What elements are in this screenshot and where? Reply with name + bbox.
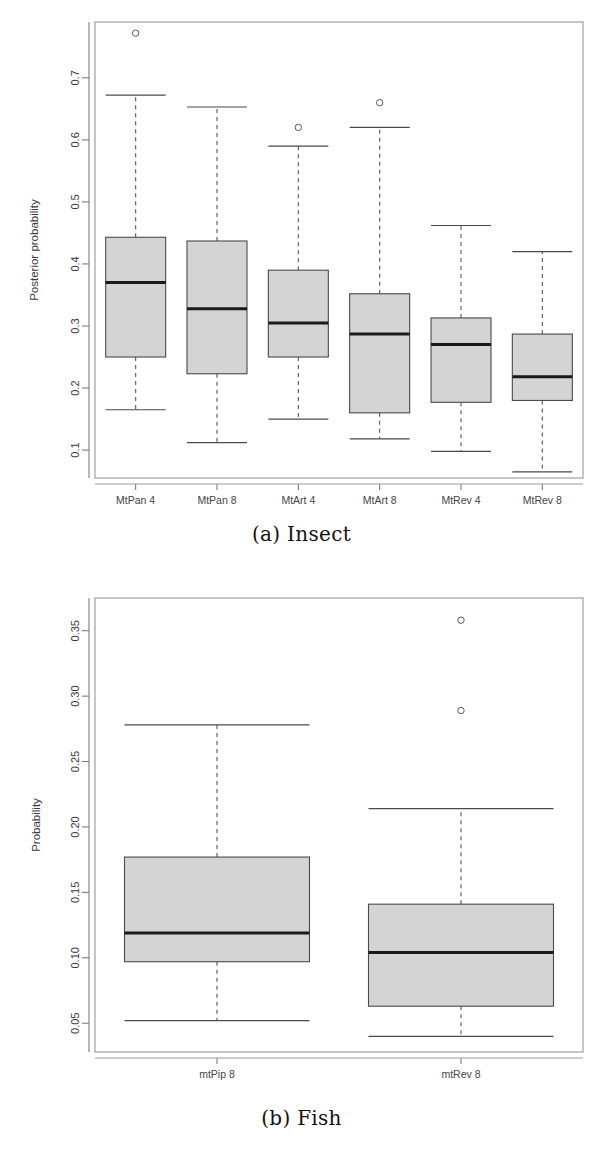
y-axis-tick-label: 0.25: [69, 751, 81, 772]
box-group: MtRev 8: [512, 252, 572, 506]
y-axis-tick-label: 0.6: [69, 132, 81, 147]
x-axis-category-label: MtArt 4: [281, 494, 315, 506]
plot-frame: [95, 22, 583, 478]
y-axis-title: Probability: [30, 798, 42, 852]
y-axis-tick-label: 0.7: [69, 70, 81, 85]
y-axis-tick-label: 0.05: [69, 1013, 81, 1034]
box-iqr: [106, 237, 166, 357]
box-iqr: [125, 857, 310, 962]
x-axis-category-label: mtRev 8: [441, 1068, 480, 1080]
x-axis-category-label: MtPan 4: [116, 494, 155, 506]
outlier-point: [295, 124, 301, 130]
outlier-point: [376, 99, 382, 105]
y-axis-tick-label: 0.15: [69, 882, 81, 903]
x-axis-category-label: MtRev 4: [441, 494, 480, 506]
y-axis-tick-label: 0.20: [69, 816, 81, 837]
box-iqr: [350, 294, 410, 413]
y-axis-title: Posterior probability: [28, 199, 40, 301]
y-axis-tick-label: 0.5: [69, 194, 81, 209]
box-group: MtArt 8: [350, 99, 410, 506]
box-iqr: [268, 270, 328, 357]
x-axis-category-label: MtPan 8: [197, 494, 236, 506]
boxplot-fish: 0.050.100.150.200.250.300.35Probabilitym…: [0, 584, 603, 1104]
y-axis-tick-label: 0.10: [69, 947, 81, 968]
box-group: MtPan 4: [106, 30, 166, 506]
figure-insect: 0.10.20.30.40.50.60.7Posterior probabili…: [0, 0, 603, 584]
x-axis-category-label: mtPip 8: [199, 1068, 235, 1080]
y-axis-tick-label: 0.30: [69, 685, 81, 706]
x-axis-category-label: MtRev 8: [523, 494, 562, 506]
y-axis-tick-label: 0.4: [69, 256, 81, 271]
boxplot-fish-canvas: 0.050.100.150.200.250.300.35Probabilitym…: [0, 584, 603, 1104]
box-group: mtPip 8: [125, 725, 310, 1080]
box-iqr: [431, 318, 491, 402]
boxplot-insect-canvas: 0.10.20.30.40.50.60.7Posterior probabili…: [0, 0, 603, 520]
figure-caption-insect: (a) Insect: [0, 522, 603, 546]
box-iqr: [369, 904, 554, 1006]
x-axis-category-label: MtArt 8: [363, 494, 397, 506]
boxplot-insect: 0.10.20.30.40.50.60.7Posterior probabili…: [0, 0, 603, 520]
outlier-point: [458, 707, 464, 713]
box-iqr: [512, 334, 572, 400]
box-group: mtRev 8: [369, 617, 554, 1080]
outlier-point: [132, 30, 138, 36]
outlier-point: [458, 617, 464, 623]
y-axis-tick-label: 0.35: [69, 620, 81, 641]
figure-fish: 0.050.100.150.200.250.300.35Probabilitym…: [0, 584, 603, 1168]
y-axis-tick-label: 0.3: [69, 318, 81, 333]
y-axis-tick-label: 0.1: [69, 442, 81, 457]
box-group: MtRev 4: [431, 225, 491, 506]
box-group: MtArt 4: [268, 124, 328, 506]
figure-caption-fish: (b) Fish: [0, 1106, 603, 1130]
box-group: MtPan 8: [187, 107, 247, 506]
y-axis-tick-label: 0.2: [69, 380, 81, 395]
